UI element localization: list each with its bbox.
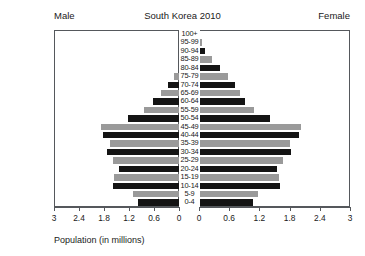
female-bar [200,174,279,180]
axis-tick [259,207,260,211]
male-axis [54,207,179,212]
male-bar [107,149,186,155]
female-bar [200,199,253,205]
axis-tick [104,207,105,211]
male-bar [110,140,186,146]
female-bar [200,39,202,45]
male-side-label: Male [54,10,75,21]
female-bar [200,157,283,163]
axis-tick-label: 1.8 [98,213,110,223]
male-bar [128,115,186,121]
axis-tick [229,207,230,211]
female-bar [200,90,240,96]
chart-title: South Korea 2010 [144,10,221,21]
female-bar [200,183,280,189]
axis-tick-label: 2.4 [73,213,85,223]
male-bar [113,183,186,189]
axis-tick [129,207,130,211]
female-bar [200,132,299,138]
axis-tick-label: 0.6 [223,213,235,223]
pyramid-row: 5-9 [0,190,365,198]
male-bar [103,132,186,138]
female-bar [200,82,235,88]
male-bar [119,166,187,172]
female-bar [200,140,290,146]
axis-tick-label: 3 [52,213,57,223]
axis-tick [154,207,155,211]
male-bar [113,157,186,163]
population-pyramid-chart: Male South Korea 2010 Female 100+95-9990… [0,0,365,256]
female-bar [200,149,291,155]
pyramid-rows: 100+95-9990-9485-8980-8475-7970-7465-696… [0,30,365,207]
male-bar [114,174,186,180]
female-bar [200,48,205,54]
axis-tick [179,207,180,211]
female-bar [200,166,277,172]
axis-title: Population (in millions) [54,235,145,245]
female-bar [200,124,301,130]
axis-tick-label: 1.2 [254,213,266,223]
male-bar [101,124,186,130]
axis-tick [320,207,321,211]
pyramid-row: 10-14 [0,182,365,190]
female-axis [199,207,350,212]
male-tick-labels: 32.41.81.20.60 [54,213,179,225]
female-tick-labels: 00.61.21.82.43 [199,213,350,225]
axis-tick-label: 0 [177,213,182,223]
male-axis-line [54,207,179,208]
axis-tick-label: 0 [197,213,202,223]
axis-tick [199,207,200,211]
female-side-label: Female [318,10,350,21]
female-bar [200,65,220,71]
axis-tick [350,207,351,211]
female-bar [200,73,228,79]
female-bar [200,107,254,113]
axis-tick-label: 1.8 [284,213,296,223]
axis-tick-label: 0.6 [148,213,160,223]
female-bar [200,191,258,197]
female-axis-line [199,207,350,208]
female-bar [200,56,212,62]
axis-tick [79,207,80,211]
axis-tick [54,207,55,211]
axis-tick-label: 1.2 [123,213,135,223]
female-bar [200,115,270,121]
axis-tick [290,207,291,211]
age-group-label: 0-4 [179,198,200,206]
pyramid-row: 0-4 [0,198,365,206]
axis-tick-label: 2.4 [314,213,326,223]
female-bar [200,98,245,104]
axis-tick-label: 3 [348,213,353,223]
chart-header: Male South Korea 2010 Female [0,10,365,24]
